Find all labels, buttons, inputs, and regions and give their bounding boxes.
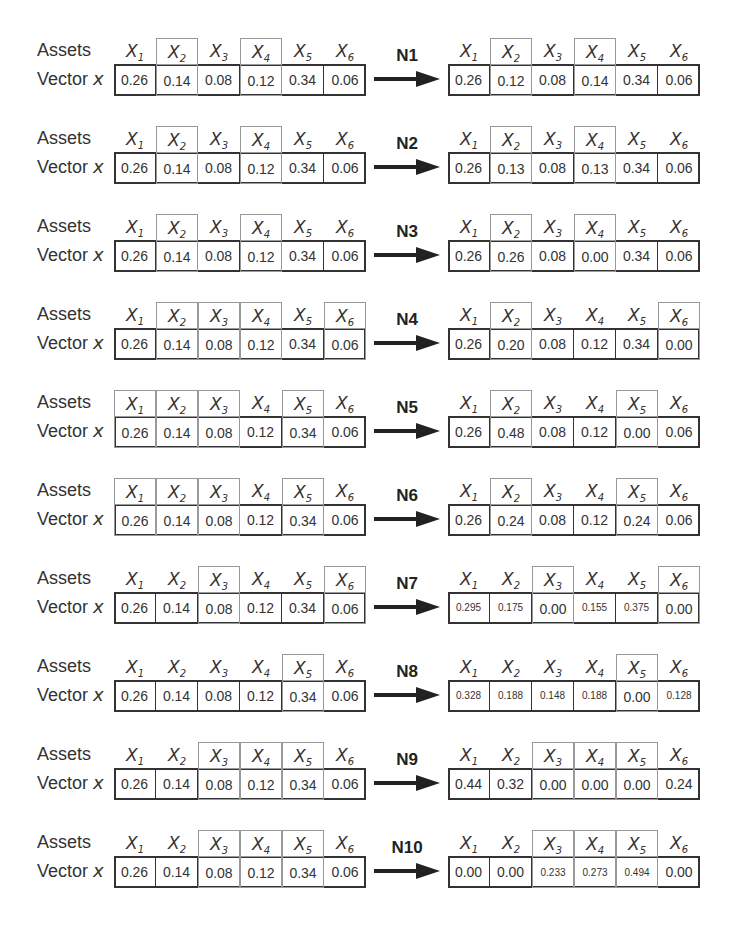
asset-header-x5: X5 [616, 302, 658, 328]
vector-cell-x6: 0.06 [324, 240, 366, 272]
operator-label: N9 [374, 750, 440, 770]
asset-header-x1: X1 [448, 302, 490, 328]
asset-header-x1: X1 [114, 654, 156, 680]
vector-cell-x2: 0.14 [156, 504, 198, 536]
asset-header-x2: X2 [156, 126, 198, 152]
vector-cell-x2: 0.14 [156, 240, 198, 272]
vector-label: Vector x [37, 244, 104, 266]
asset-header-x1: X1 [448, 38, 490, 64]
vector-cell-x3: 0.08 [198, 328, 240, 360]
vector-cell-x4: 0.12 [240, 592, 282, 624]
vector-cell-x4: 0.12 [574, 416, 616, 448]
asset-header-x6: X6 [658, 302, 700, 328]
asset-header-x2: X2 [156, 830, 198, 856]
output-vector-grid: X1X2X3X4X5X60.000.000.2330.2730.4940.00 [448, 830, 700, 890]
assets-label: Assets [37, 744, 91, 765]
vector-cell-x5: 0.34 [282, 240, 324, 272]
right-arrow-icon [374, 772, 440, 794]
asset-header-x1: X1 [448, 126, 490, 152]
vector-cell-x4: 0.12 [240, 416, 282, 448]
asset-header-x3: X3 [198, 566, 240, 592]
assets-label: Assets [37, 216, 91, 237]
asset-header-x1: X1 [448, 390, 490, 416]
vector-cell-x6: 0.24 [658, 768, 700, 800]
vector-cell-x5: 0.34 [282, 592, 324, 624]
vector-cell-x4: 0.00 [574, 768, 616, 800]
vector-cell-x1: 0.295 [448, 592, 490, 624]
asset-header-x6: X6 [324, 830, 366, 856]
asset-header-x5: X5 [616, 390, 658, 416]
vector-cell-x1: 0.44 [448, 768, 490, 800]
vector-cell-x6: 0.06 [324, 64, 366, 96]
vector-cell-x2: 0.12 [490, 64, 532, 96]
input-vector-grid: X1X2X3X4X5X60.260.140.080.120.340.06 [114, 742, 366, 802]
operation-row-n1: Assets Vector x X1X2X3X4X5X60.260.140.08… [0, 38, 729, 126]
vector-cell-x5: 0.24 [616, 504, 658, 536]
asset-header-x6: X6 [324, 38, 366, 64]
output-vector-grid: X1X2X3X4X5X60.260.120.080.140.340.06 [448, 38, 700, 98]
input-vector-grid: X1X2X3X4X5X60.260.140.080.120.340.06 [114, 214, 366, 274]
asset-header-x1: X1 [114, 126, 156, 152]
asset-header-x6: X6 [324, 214, 366, 240]
vector-cell-x4: 0.14 [574, 64, 616, 96]
vector-cell-x5: 0.34 [282, 680, 324, 712]
asset-header-x4: X4 [574, 302, 616, 328]
vector-cell-x3: 0.08 [198, 504, 240, 536]
vector-cell-x5: 0.34 [282, 64, 324, 96]
vector-cell-x4: 0.00 [574, 240, 616, 272]
assets-label: Assets [37, 128, 91, 149]
vector-cell-x3: 0.00 [532, 592, 574, 624]
asset-header-x2: X2 [490, 830, 532, 856]
asset-header-x6: X6 [324, 654, 366, 680]
vector-cell-x5: 0.375 [616, 592, 658, 624]
asset-header-x5: X5 [282, 830, 324, 856]
output-vector-grid: X1X2X3X4X5X60.260.200.080.120.340.00 [448, 302, 700, 362]
assets-label: Assets [37, 832, 91, 853]
vector-cell-x4: 0.12 [240, 768, 282, 800]
asset-header-x4: X4 [574, 38, 616, 64]
asset-header-x2: X2 [490, 38, 532, 64]
operation-row-n8: Assets Vector x X1X2X3X4X5X60.260.140.08… [0, 654, 729, 742]
asset-header-x3: X3 [532, 566, 574, 592]
operation-row-n7: Assets Vector x X1X2X3X4X5X60.260.140.08… [0, 566, 729, 654]
vector-cell-x1: 0.26 [448, 152, 490, 184]
vector-cell-x1: 0.26 [448, 504, 490, 536]
vector-cell-x1: 0.26 [114, 416, 156, 448]
vector-cell-x5: 0.00 [616, 416, 658, 448]
asset-header-x3: X3 [198, 126, 240, 152]
right-arrow-icon [374, 860, 440, 882]
asset-header-x6: X6 [658, 566, 700, 592]
right-arrow-icon [374, 508, 440, 530]
vector-cell-x1: 0.26 [114, 856, 156, 888]
input-vector-grid: X1X2X3X4X5X60.260.140.080.120.340.06 [114, 566, 366, 626]
asset-header-x3: X3 [532, 214, 574, 240]
asset-header-x4: X4 [240, 830, 282, 856]
vector-label: Vector x [37, 684, 104, 706]
asset-header-x4: X4 [574, 654, 616, 680]
asset-header-x4: X4 [240, 302, 282, 328]
vector-cell-x1: 0.26 [114, 592, 156, 624]
asset-header-x1: X1 [114, 742, 156, 768]
vector-cell-x4: 0.188 [574, 680, 616, 712]
asset-header-x6: X6 [658, 126, 700, 152]
asset-header-x2: X2 [156, 566, 198, 592]
vector-cell-x4: 0.273 [574, 856, 616, 888]
operation-row-n4: Assets Vector x X1X2X3X4X5X60.260.140.08… [0, 302, 729, 390]
asset-header-x1: X1 [114, 390, 156, 416]
vector-cell-x2: 0.24 [490, 504, 532, 536]
vector-cell-x5: 0.34 [616, 152, 658, 184]
operator-label: N2 [374, 134, 440, 154]
output-vector-grid: X1X2X3X4X5X60.2950.1750.000.1550.3750.00 [448, 566, 700, 626]
asset-header-x5: X5 [282, 390, 324, 416]
asset-header-x3: X3 [532, 38, 574, 64]
input-vector-grid: X1X2X3X4X5X60.260.140.080.120.340.06 [114, 830, 366, 890]
operation-row-n10: Assets Vector x X1X2X3X4X5X60.260.140.08… [0, 830, 729, 918]
right-arrow-icon [374, 332, 440, 354]
vector-cell-x1: 0.26 [448, 328, 490, 360]
vector-cell-x2: 0.26 [490, 240, 532, 272]
asset-header-x1: X1 [114, 38, 156, 64]
asset-header-x6: X6 [324, 390, 366, 416]
asset-header-x3: X3 [532, 654, 574, 680]
vector-cell-x1: 0.26 [448, 240, 490, 272]
vector-cell-x2: 0.14 [156, 328, 198, 360]
